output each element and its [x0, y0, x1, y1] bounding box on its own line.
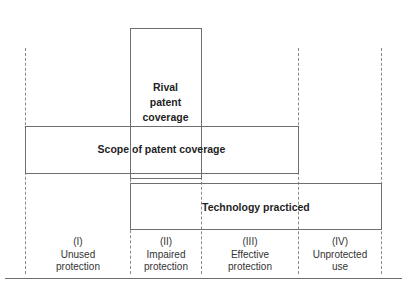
region-label-impaired-protection: (II) Impaired protection	[131, 236, 201, 274]
rival-label-line1: Rival	[130, 80, 201, 95]
region-numeral: (IV)	[299, 236, 381, 249]
region-line1: Unused	[30, 249, 126, 262]
scope-of-patent-coverage-label: Scope of patent coverage	[25, 143, 298, 156]
bottom-rule	[5, 278, 402, 279]
region-line2: protection	[131, 261, 201, 274]
region-line1: Impaired	[131, 249, 201, 262]
patent-coverage-diagram: Rival patent coverage Scope of patent co…	[0, 0, 413, 286]
region-numeral: (II)	[131, 236, 201, 249]
technology-practiced-label: Technology practiced	[202, 201, 298, 214]
region-label-unprotected-use: (IV) Unprotected use	[299, 236, 381, 274]
region-label-effective-protection: (III) Effective protection	[202, 236, 298, 274]
region-numeral: (III)	[202, 236, 298, 249]
divider-right	[381, 48, 382, 274]
region-numeral: (I)	[30, 236, 126, 249]
rival-label-line3: coverage	[130, 110, 201, 125]
region-line1: Effective	[202, 249, 298, 262]
rival-label-line2: patent	[130, 95, 201, 110]
region-label-unused-protection: (I) Unused protection	[30, 236, 126, 274]
region-line2: protection	[202, 261, 298, 274]
rival-patent-coverage-label: Rival patent coverage	[130, 80, 201, 125]
region-line2: use	[299, 261, 381, 274]
region-line1: Unprotected	[299, 249, 381, 262]
region-line2: protection	[30, 261, 126, 274]
